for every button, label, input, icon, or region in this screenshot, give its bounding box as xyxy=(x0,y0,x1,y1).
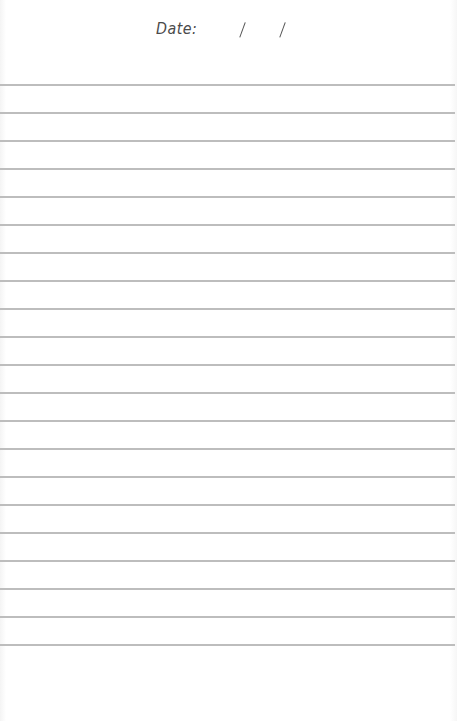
ruled-line xyxy=(0,644,455,646)
ruled-line xyxy=(0,224,455,226)
ruled-lines xyxy=(0,0,457,721)
ruled-line xyxy=(0,308,455,310)
ruled-line xyxy=(0,476,455,478)
ruled-line xyxy=(0,448,455,450)
ruled-line xyxy=(0,336,455,338)
ruled-line xyxy=(0,504,455,506)
ruled-line xyxy=(0,112,455,114)
ruled-line xyxy=(0,560,455,562)
ruled-line xyxy=(0,392,455,394)
ruled-line xyxy=(0,84,455,86)
ruled-line xyxy=(0,280,455,282)
ruled-line xyxy=(0,364,455,366)
ruled-line xyxy=(0,168,455,170)
ruled-line xyxy=(0,588,455,590)
ruled-line xyxy=(0,252,455,254)
notebook-page: Date: xyxy=(0,0,457,721)
ruled-line xyxy=(0,532,455,534)
ruled-line xyxy=(0,196,455,198)
ruled-line xyxy=(0,140,455,142)
ruled-line xyxy=(0,420,455,422)
ruled-line xyxy=(0,616,455,618)
